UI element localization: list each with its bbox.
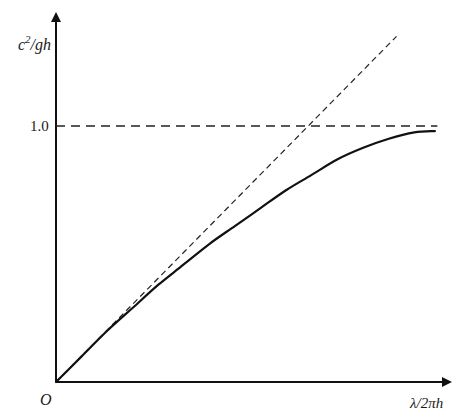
dispersion-curve xyxy=(56,131,435,382)
x-axis-label: λ/2πh xyxy=(409,395,443,411)
y-tick-1: 1.0 xyxy=(30,118,49,134)
y-axis-label: c2/gh xyxy=(18,33,51,54)
dispersion-chart: c2/gh 1.0 O λ/2πh xyxy=(0,0,468,418)
origin-label: O xyxy=(40,391,52,408)
